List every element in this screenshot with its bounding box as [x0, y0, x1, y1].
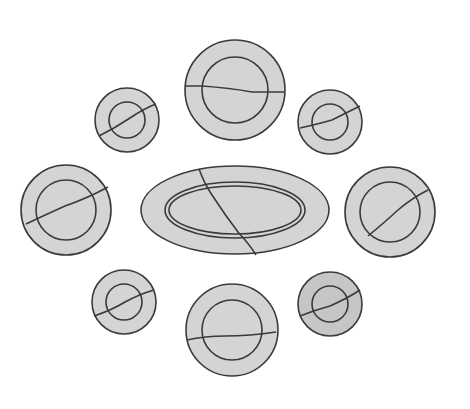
- plate-bottom-center: [186, 284, 278, 376]
- plate-bottom-left: [92, 270, 156, 334]
- plate-mid-right: [345, 167, 435, 257]
- broken-dishes-drawing: Line drawing of broken plates arranged a…: [0, 0, 470, 409]
- plate-bottom-right: [298, 272, 362, 336]
- plate-top-right: [298, 90, 362, 154]
- plate-top-center: [185, 40, 285, 140]
- plate-mid-left: [21, 165, 111, 255]
- plate-top-left: [95, 88, 159, 152]
- drawing-svg: [0, 0, 470, 409]
- oval-platter: [141, 166, 329, 255]
